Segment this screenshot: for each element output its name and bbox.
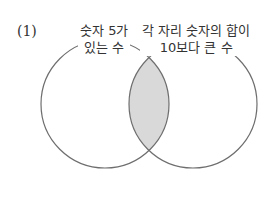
intersection-shading bbox=[129, 40, 257, 168]
right-set-label-line1: 각 자리 숫자의 합이 bbox=[142, 22, 250, 39]
problem-number: (1) bbox=[17, 23, 37, 39]
right-set-label-line2: 10보다 큰 수 bbox=[142, 39, 250, 56]
left-set-label-line1: 숫자 5가 bbox=[80, 22, 128, 39]
left-set-label: 숫자 5가 있는 수 bbox=[78, 22, 130, 56]
left-set-label-line2: 있는 수 bbox=[80, 39, 128, 56]
right-set-label: 각 자리 숫자의 합이 10보다 큰 수 bbox=[140, 22, 252, 56]
